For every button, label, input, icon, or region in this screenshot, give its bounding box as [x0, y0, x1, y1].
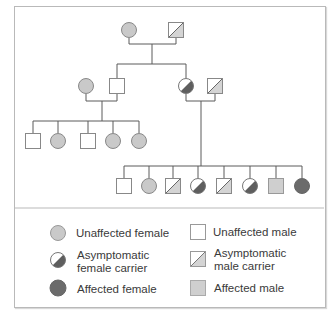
legend-label-carrier-male-line1: Asymptomatic [214, 247, 286, 260]
legend-label-affected-female: Affected female [77, 283, 157, 296]
legend-label-carrier-male: Asymptomatic male carrier [214, 247, 286, 273]
carrier-female-icon [178, 78, 194, 94]
legend-affected-male-icon [191, 281, 206, 296]
unaffected-female-icon [106, 134, 121, 149]
legend-label-carrier-female: Asymptomatic female carrier [77, 249, 149, 275]
unaffected-female-icon [122, 23, 137, 38]
unaffected-male-icon [26, 134, 41, 149]
generation-4 [117, 178, 310, 194]
unaffected-female-icon [51, 134, 66, 149]
legend-unaffected-male-icon [191, 225, 206, 240]
legend-affected-female-icon [50, 280, 66, 296]
generation-2 [79, 78, 223, 94]
affected-female-icon [295, 179, 310, 194]
unaffected-female-icon [132, 134, 147, 149]
generation-3 [26, 134, 147, 149]
carrier-female-icon [190, 178, 206, 194]
legend-unaffected-female-icon [51, 226, 66, 241]
unaffected-female-icon [79, 79, 94, 94]
legend-carrier-female-icon [50, 252, 66, 268]
legend-carrier-male-icon [191, 252, 206, 267]
carrier-male-icon [208, 79, 223, 94]
unaffected-male-icon [110, 79, 125, 94]
legend-label-carrier-male-line2: male carrier [214, 260, 286, 273]
legend-label-carrier-female-line1: Asymptomatic [77, 249, 149, 262]
legend-label-carrier-female-line2: female carrier [77, 262, 149, 275]
carrier-male-icon [166, 179, 181, 194]
unaffected-male-icon [81, 134, 96, 149]
legend-label-unaffected-male: Unaffected male [213, 226, 297, 239]
legend-label-unaffected-female: Unaffected female [76, 227, 169, 240]
legend-label-affected-male: Affected male [214, 282, 284, 295]
generation-1 [122, 23, 184, 38]
carrier-male-icon [169, 23, 184, 38]
unaffected-male-icon [117, 179, 132, 194]
carrier-female-icon [242, 178, 258, 194]
carrier-male-icon [217, 179, 232, 194]
affected-male-icon [269, 179, 284, 194]
unaffected-female-icon [142, 179, 157, 194]
